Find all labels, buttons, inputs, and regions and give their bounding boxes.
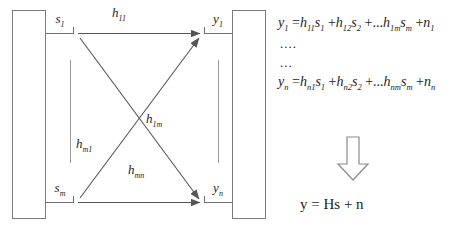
plus-sign: + bbox=[416, 74, 424, 89]
equation-ellipsis-1: .... bbox=[280, 37, 470, 50]
inline-ellipsis: ... bbox=[373, 74, 384, 89]
equation-line-2: yn =hn1s1 +hn2s2 +...hnmsm +nn bbox=[278, 75, 470, 92]
channel-label-h1m: h1m bbox=[146, 112, 162, 129]
channel-label-h11: h11 bbox=[112, 6, 126, 23]
inline-ellipsis: ... bbox=[372, 15, 383, 30]
plus-sign: + bbox=[328, 15, 336, 30]
equation-ellipsis-2: ... bbox=[280, 56, 470, 69]
channel-label-hm1: hm1 bbox=[76, 137, 92, 154]
channel-label-hmn: hmn bbox=[128, 163, 144, 180]
equation-line-1: y1 =h11s1 +h12s2 +...h1msm +n1 bbox=[278, 16, 470, 33]
matrix-equation: y = Hs + n bbox=[300, 196, 364, 213]
equals-sign: = bbox=[292, 74, 300, 89]
equals-sign: = bbox=[292, 15, 300, 30]
plus-sign: + bbox=[365, 74, 373, 89]
down-arrow-icon bbox=[336, 136, 370, 182]
system-equations: y1 =h11s1 +h12s2 +...h1msm +n1 .... ... … bbox=[278, 16, 470, 93]
mimo-channel-figure: s1 sm y1 yn h11 h1m hm1 hmn bbox=[0, 0, 474, 230]
